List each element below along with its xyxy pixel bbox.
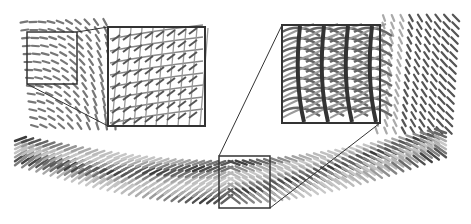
helical-band — [15, 129, 446, 203]
figure — [0, 0, 471, 224]
right-callout-line-left — [219, 25, 282, 156]
left-callout-line-top — [77, 27, 108, 32]
left-inset — [108, 25, 208, 126]
upper-left-glyph-field — [21, 19, 116, 130]
left-source-box — [27, 32, 77, 84]
figure-canvas — [0, 0, 471, 224]
right-inset — [282, 24, 392, 123]
